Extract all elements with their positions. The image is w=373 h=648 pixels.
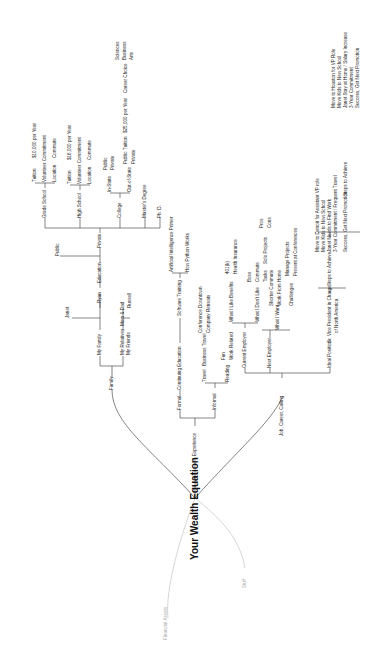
node-janet[interactable]: Janet [66,307,71,318]
node-t4[interactable]: 3-Year Commitment [350,67,355,108]
node-python[interactable]: How Python Works [186,233,191,272]
node-gs-location[interactable]: Location [53,165,58,182]
mind-map-canvas: Your Wealth Equation Financial Assets St… [0,0,373,648]
node-pros[interactable]: Pros [260,219,265,228]
node-wfh[interactable]: Work From Home [278,270,283,306]
node-education[interactable]: Education [98,263,103,283]
node-sr-vp-region[interactable]: of North America [335,299,340,333]
node-out-of-state[interactable]: Out-of-State [128,167,133,192]
node-work-related[interactable]: Work Related [230,332,235,360]
node-high-school[interactable]: High School [78,193,83,218]
node-tasks[interactable]: Tasks [264,270,269,282]
node-gs-tuition-value[interactable]: $10,000 per Year [33,123,38,158]
node-my-family[interactable]: My Family [98,334,103,355]
node-gs-tuition[interactable]: Tuition [33,168,38,182]
node-continuing-education[interactable]: Continuing Education [178,346,183,390]
node-college-tuition-value[interactable]: $25,000 per Year [124,98,129,133]
node-career-choice[interactable]: Career Choice [124,63,129,93]
node-family[interactable]: Family [110,376,115,390]
node-in-state[interactable]: In-State [108,176,113,192]
node-hs-tuition[interactable]: Tuition [68,170,73,184]
branch-stuff[interactable]: Stuff [243,579,248,588]
node-ideal-position[interactable]: Ideal Position [328,340,333,368]
node-manage-projects[interactable]: Manage Projects [286,242,291,276]
node-step-3[interactable]: Janet Needs to Find Work [328,199,333,252]
node-what-i-want[interactable]: What I Want [276,305,281,330]
node-gs-volunteer[interactable]: Volunteer Commitment [43,135,48,182]
node-hs-location[interactable]: Location [88,167,93,184]
node-cons[interactable]: Cons [268,217,273,228]
node-hs-tuition-value[interactable]: $16,000 per Year [68,125,73,160]
node-public[interactable]: Public [56,243,61,256]
node-formal[interactable]: Formal [178,396,183,410]
node-current-employer[interactable]: Current Employer [243,332,248,368]
node-conference[interactable]: Conference Downtown [199,287,204,333]
node-private[interactable]: Private [98,234,103,248]
node-steps-to-achieve[interactable]: Steps to Achieve [328,252,333,286]
node-t3[interactable]: Janet Stay at Home / Salary Increase [344,32,349,108]
node-t5[interactable]: Success, Get Next Promotion [356,48,361,108]
node-arts[interactable]: Arts [130,52,135,60]
node-college-tuition[interactable]: Tuition [124,136,129,150]
node-next-employer[interactable]: Next Employer [268,338,273,368]
node-russell[interactable]: Russell [128,293,133,308]
node-gs-commute[interactable]: Commute [53,138,58,158]
node-what-i-dont-like[interactable]: What I Don't Like [256,287,261,322]
node-out-public[interactable]: Public [124,151,129,164]
branch-financial-assets[interactable]: Financial Assets [164,607,169,640]
node-travel[interactable]: Travel [203,369,208,382]
node-business-travel[interactable]: Business Travel [203,334,208,366]
node-phd[interactable]: Ph. D. [158,205,163,218]
node-retreats[interactable]: Company Retreats [207,295,212,333]
node-step-1[interactable]: Move to Detroit for Assistant VP role [316,178,321,252]
node-what-i-like[interactable]: What I Like [230,299,235,322]
node-shorter-commute[interactable]: Shorter Commute [270,270,275,306]
node-business[interactable]: Business [123,41,128,60]
node-success[interactable]: Success, Get Next Promotion [344,192,349,252]
node-t1[interactable]: Move to Houston for VP Role [332,49,337,108]
node-boss[interactable]: Boss [248,272,253,282]
node-steps-to-achieve-2[interactable]: Steps to Achieve [344,162,349,196]
node-out-private[interactable]: Private [132,150,137,164]
node-grade-school[interactable]: Grade School [43,190,48,218]
node-ryan[interactable]: Ryan [98,292,103,303]
node-hs-volunteer[interactable]: Volunteer Commitment [78,137,83,184]
node-mom-dad[interactable]: Mom & Dad [121,302,126,326]
node-hs-commute[interactable]: Commute [88,140,93,160]
node-sciences[interactable]: Sciences [116,41,121,60]
node-present-conferences[interactable]: Present at Conferences [294,228,299,276]
node-challenges[interactable]: Challenges [290,283,295,306]
node-my-friends[interactable]: My Friends [127,332,132,355]
node-health[interactable]: Health Insurance [234,239,239,274]
node-solo-projects[interactable]: Solo Projects [264,237,269,264]
node-step-2[interactable]: Move Kids to New School [322,200,327,252]
node-in-public[interactable]: Public [104,157,109,170]
node-in-private[interactable]: Private [111,156,116,170]
node-experience[interactable]: Experience [193,433,198,456]
node-ai-primer[interactable]: Artificial Intelligence Primer [170,217,175,272]
node-fun[interactable]: Fun [222,352,227,360]
connector-lines [0,0,373,648]
node-401k[interactable]: 401(k) [226,261,231,274]
node-masters[interactable]: Master's Degree [143,184,148,218]
node-commute[interactable]: Commute [256,262,261,282]
node-software-training[interactable]: Software Training [178,280,183,316]
node-sr-vp[interactable]: Sr. Vice President in Charge [328,285,333,343]
node-t2[interactable]: Move Kids to New School [338,56,343,108]
node-my-relatives[interactable]: My Relatives [121,329,126,355]
node-informal[interactable]: Informal [213,393,218,410]
node-college[interactable]: College [118,202,123,218]
node-benefits[interactable]: Benefits [230,281,235,298]
node-job[interactable]: Job, Career, Calling [280,396,285,436]
node-step-4[interactable]: 3-Year Commitment / Frequent Travel [334,175,339,252]
root-title: Your Wealth Equation [189,457,200,560]
node-reading[interactable]: Reading [226,365,231,382]
